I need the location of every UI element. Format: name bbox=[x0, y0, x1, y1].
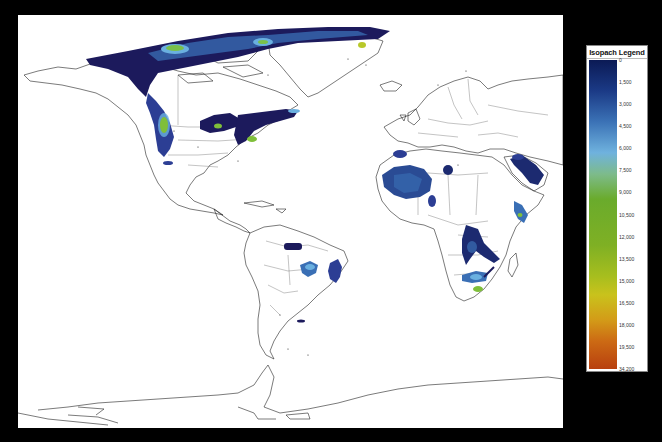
legend-tick-label: 18,000 bbox=[619, 322, 634, 328]
europe-borders bbox=[418, 79, 548, 137]
legend-tick-label: 34,200 bbox=[619, 366, 634, 372]
legend-tick-label: 15,000 bbox=[619, 278, 634, 284]
isopach-sao-francisco[interactable] bbox=[328, 259, 342, 283]
islands bbox=[173, 58, 466, 355]
antarctica-coastline bbox=[38, 365, 563, 413]
antarctic-shelf bbox=[18, 407, 310, 425]
legend-tick-label: 13,500 bbox=[619, 256, 634, 262]
legend-tick-label: 16,500 bbox=[619, 300, 634, 306]
isopach-amazon[interactable] bbox=[284, 243, 302, 250]
legend-color-ramp bbox=[589, 60, 617, 369]
legend-tick-label: 1,500 bbox=[619, 79, 632, 85]
isopach-arctic-high-2-core[interactable] bbox=[258, 40, 268, 44]
iceland-coastline bbox=[380, 81, 402, 91]
isopach-argentina[interactable] bbox=[297, 320, 305, 323]
map-canvas[interactable] bbox=[18, 15, 563, 428]
legend-tick-label: 10,500 bbox=[619, 212, 634, 218]
isopach-appalachian-core[interactable] bbox=[247, 136, 257, 142]
isopach-appalachian[interactable] bbox=[234, 109, 298, 145]
isopach-kalahari-light[interactable] bbox=[470, 274, 482, 280]
south-america-borders bbox=[264, 241, 328, 315]
isopach-ne-canada[interactable] bbox=[288, 109, 300, 113]
isopach-parana-light[interactable] bbox=[305, 264, 315, 270]
central-america-coastline bbox=[214, 201, 286, 233]
legend-tick-label: 6,000 bbox=[619, 145, 632, 151]
isopach-sw-us[interactable] bbox=[163, 161, 173, 165]
isopach-karoo[interactable] bbox=[473, 286, 483, 292]
legend-tick-label: 0 bbox=[619, 57, 622, 63]
isopach-layer bbox=[86, 27, 544, 323]
isopach-greenland-east[interactable] bbox=[358, 42, 366, 48]
legend-tick-label: 7,500 bbox=[619, 167, 632, 173]
british-isles-coastline bbox=[400, 109, 420, 125]
isopach-arctic-high-1-core[interactable] bbox=[166, 45, 184, 51]
isopach-levant[interactable] bbox=[512, 154, 524, 160]
isopach-midcontinent-core[interactable] bbox=[214, 124, 222, 129]
isopach-morocco[interactable] bbox=[393, 150, 407, 158]
isopach-chad[interactable] bbox=[443, 165, 453, 175]
isopach-midcontinent[interactable] bbox=[200, 113, 240, 133]
legend-tick-label: 4,500 bbox=[619, 123, 632, 129]
world-map[interactable] bbox=[18, 15, 563, 428]
isopach-ethiopia[interactable] bbox=[514, 201, 528, 223]
europe-coastline bbox=[384, 75, 563, 165]
isopach-gulf-guinea[interactable] bbox=[428, 195, 436, 207]
legend-title: Isopach Legend bbox=[587, 47, 647, 59]
legend-tick-label: 19,500 bbox=[619, 344, 634, 350]
isopach-ethiopia-core[interactable] bbox=[518, 213, 523, 217]
isopach-zambezi[interactable] bbox=[484, 267, 494, 277]
isopach-congo-inner[interactable] bbox=[467, 241, 477, 253]
madagascar-coastline bbox=[508, 253, 518, 277]
legend-tick-label: 3,000 bbox=[619, 101, 632, 107]
isopach-western-canada-core[interactable] bbox=[160, 117, 168, 133]
legend-tick-label: 12,000 bbox=[619, 234, 634, 240]
legend-tick-label: 9,000 bbox=[619, 189, 632, 195]
isopach-legend: Isopach Legend 01,5003,0004,5006,0007,50… bbox=[586, 45, 648, 372]
